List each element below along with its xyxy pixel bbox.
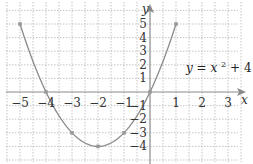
y-tick-label: 3 [139,44,147,58]
x-tick-label: 3 [224,96,232,110]
equation-x: x [210,61,217,75]
x-tick-label: 1 [172,96,180,110]
y-tick-label: −3 [129,126,147,140]
data-point-marker [122,131,126,135]
y-tick-label: −1 [129,99,147,113]
x-tick-label: −5 [11,96,29,110]
y-tick-label: 1 [139,71,147,85]
x-axis-label: x [241,93,248,107]
y-tick-label: 2 [139,58,147,72]
equation-exponent: 2 [221,60,226,69]
data-point-marker [44,90,48,94]
equation-label: y = x 2 + 4 x [185,56,253,75]
data-point-marker [18,22,22,26]
x-tick-label: 2 [198,96,206,110]
x-tick-label: −3 [63,96,81,110]
y-tick-label: 4 [139,31,147,45]
equation-equals: = [197,61,211,75]
y-tick-label: −4 [129,139,147,153]
y-axis-label: y [141,2,149,16]
data-point-marker [70,131,74,135]
equation-y: y [185,61,193,75]
x-tick-label: −4 [37,96,55,110]
parabola-chart: −5−4−3−2−1123−4−3−2−112345 y x y = x 2 +… [0,0,253,164]
y-tick-label: 5 [139,17,147,31]
data-point-marker [148,90,152,94]
equation-plus: + 4 [230,61,252,75]
y-tick-label: −2 [129,112,147,126]
x-tick-label: −2 [89,96,107,110]
data-point-marker [96,145,100,149]
data-point-marker [174,22,178,26]
